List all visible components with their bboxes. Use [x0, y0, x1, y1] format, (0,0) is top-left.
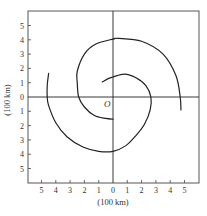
x-tick-label: 3 — [68, 186, 72, 195]
y-tick-label: 5 — [20, 22, 24, 31]
x-tick-label: 1 — [97, 186, 101, 195]
x-tick-label: 2 — [82, 186, 86, 195]
y-tick-label: 3 — [20, 136, 24, 145]
x-tick-label: 0 — [111, 186, 115, 195]
y-tick-label: 4 — [20, 36, 24, 45]
origin-label: O — [104, 99, 111, 109]
y-tick-label: 3 — [20, 50, 24, 59]
y-tick-label: 4 — [20, 150, 24, 159]
x-tick-label: 5 — [183, 186, 187, 195]
spiral-diagram: 54321012345 12345012345 O (100 km) (100 … — [0, 0, 207, 216]
spiral-arm-b — [47, 73, 151, 152]
spiral-arm-a — [77, 38, 181, 119]
x-tick-label: 4 — [54, 186, 58, 195]
y-tick-label: 2 — [20, 122, 24, 131]
x-tick-label: 4 — [168, 186, 172, 195]
y-tick-label: 1 — [20, 107, 24, 116]
x-axis-title: (100 km) — [97, 197, 129, 207]
y-tick-label: 2 — [20, 64, 24, 73]
x-tick-label: 1 — [125, 186, 129, 195]
x-tick-label: 2 — [140, 186, 144, 195]
y-axis-title: (100 km) — [2, 84, 12, 116]
y-axis-ticks: 12345012345 — [20, 22, 31, 174]
x-tick-label: 5 — [40, 186, 44, 195]
y-tick-label: 1 — [20, 79, 24, 88]
x-tick-label: 3 — [154, 186, 158, 195]
y-tick-label: 5 — [20, 165, 24, 174]
y-tick-label: 0 — [20, 93, 24, 102]
